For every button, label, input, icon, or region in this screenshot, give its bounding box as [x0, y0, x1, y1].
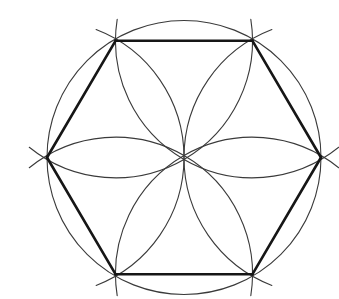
construction-arcs-group — [29, 19, 338, 295]
petal-arc-from-top-right-vertex — [116, 19, 339, 177]
hexagon-edge-lower-right — [253, 158, 322, 275]
hexagon-edge-upper-left — [47, 41, 116, 158]
construction-drawing — [0, 0, 339, 299]
petal-arc-from-bottom-right-vertex — [116, 137, 339, 295]
petal-arc-from-left-vertex — [96, 30, 184, 286]
petal-arc-from-right-vertex — [184, 30, 272, 286]
petal-arc-from-bottom-left-vertex — [29, 137, 252, 295]
geometric-figure-canvas — [0, 0, 339, 299]
hexagon-edge-upper-right — [253, 41, 322, 158]
petal-arc-from-top-left-vertex — [29, 19, 252, 177]
hexagon-edge-lower-left — [47, 158, 116, 275]
